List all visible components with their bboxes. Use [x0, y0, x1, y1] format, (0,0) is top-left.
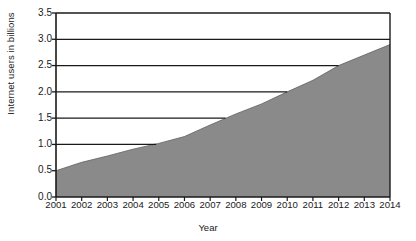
y-tick-label: 2.0 — [26, 87, 52, 97]
y-tick-label: 2.5 — [26, 60, 52, 70]
internet-users-area-chart: Internet users in billions 3.5 3.0 2.5 2… — [0, 0, 416, 241]
y-tick-label: 3.0 — [26, 34, 52, 44]
x-axis-title: Year — [0, 222, 416, 233]
y-tick-label: 0.5 — [26, 165, 52, 175]
area-series — [56, 45, 390, 197]
y-tick-label: 3.5 — [26, 8, 52, 18]
x-tick-label: 2014 — [375, 200, 405, 210]
y-tick-label: 1.5 — [26, 113, 52, 123]
y-tick-label: 1.0 — [26, 139, 52, 149]
y-axis-title: Internet users in billions — [5, 0, 16, 144]
